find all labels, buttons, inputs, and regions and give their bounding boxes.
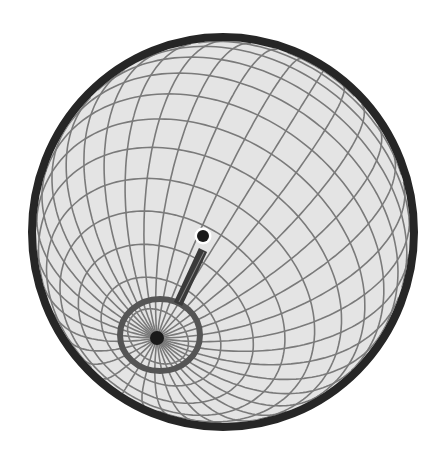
globe-svg [0, 0, 443, 461]
marker-dot-icon[interactable] [197, 230, 209, 242]
globe-diagram: globe pole marker [0, 0, 443, 461]
pole-dot-icon [150, 331, 164, 345]
